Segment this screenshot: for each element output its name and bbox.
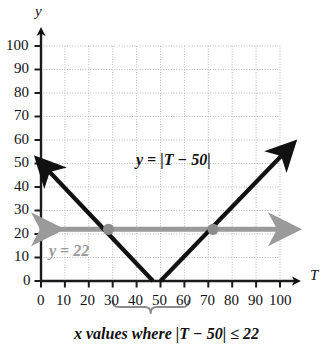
y-tick-label-20: 20 <box>14 226 29 241</box>
x-tick-label-0: 0 <box>37 293 45 308</box>
y-tick-label-80: 80 <box>14 85 29 100</box>
x-tick-label-100: 100 <box>269 293 292 308</box>
x-tick-label-80: 80 <box>224 293 239 308</box>
intersection-point-left <box>103 224 114 235</box>
curve-equation-label: y = |T − 50| <box>136 152 211 168</box>
y-tick-label-10: 10 <box>14 249 29 264</box>
y-tick-label-0: 0 <box>23 273 31 288</box>
y-tick-label-50: 50 <box>14 155 29 170</box>
x-tick-label-50: 50 <box>152 293 167 308</box>
intersection-point-right <box>207 224 218 235</box>
x-axis-label: T <box>310 268 318 283</box>
x-tick-label-30: 30 <box>104 293 119 308</box>
x-tick-label-70: 70 <box>200 293 215 308</box>
y-tick-label-30: 30 <box>14 202 29 217</box>
solution-caption: x values where |T − 50| ≤ 22 <box>0 326 333 342</box>
x-tick-label-90: 90 <box>248 293 263 308</box>
x-tick-label-10: 10 <box>56 293 71 308</box>
x-tick-label-60: 60 <box>176 293 191 308</box>
y-axis-label: y <box>35 4 42 19</box>
y-tick-label-60: 60 <box>14 132 29 147</box>
x-tick-label-40: 40 <box>128 293 143 308</box>
series-abs-right-arm <box>161 150 288 281</box>
y-tick-label-70: 70 <box>14 108 29 123</box>
y-tick-label-40: 40 <box>14 179 29 194</box>
y-tick-label-100: 100 <box>6 38 29 53</box>
absolute-value-graph-figure: 100 90 80 70 60 50 40 30 20 10 0 0 10 20… <box>0 0 333 350</box>
y-tick-label-90: 90 <box>14 61 29 76</box>
x-tick-label-20: 20 <box>80 293 95 308</box>
horizontal-line-equation-label: y = 22 <box>49 243 89 259</box>
